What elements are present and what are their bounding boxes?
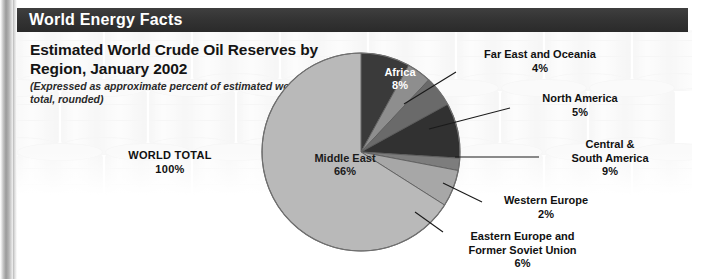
callout-eastern-europe-line1: Eastern Europe and [471, 230, 575, 242]
leader-line-north-america [429, 108, 510, 129]
callout-north-america: North America 5% [500, 92, 660, 119]
callout-western-europe-pct: 2% [476, 208, 616, 222]
leader-line-eastern-europe [415, 212, 443, 232]
callout-central-south-america-line1: Central & [586, 138, 635, 150]
callout-far-east-name: Far East and Oceania [484, 48, 596, 60]
callout-central-south-america-pct: 9% [530, 165, 690, 179]
callout-far-east-pct: 4% [440, 62, 640, 76]
callout-eastern-europe-line2: Former Soviet Union [468, 244, 576, 256]
callout-eastern-europe: Eastern Europe and Former Soviet Union 6… [435, 230, 610, 271]
callout-western-europe: Western Europe 2% [476, 194, 616, 221]
callout-western-europe-name: Western Europe [504, 194, 588, 206]
world-energy-facts-figure: World Energy Facts Estimated World Crude… [0, 0, 715, 279]
callout-far-east-and-oceania: Far East and Oceania 4% [440, 48, 640, 75]
callout-central-south-america-line2: South America [571, 152, 648, 164]
callout-north-america-name: North America [542, 92, 617, 104]
callout-eastern-europe-pct: 6% [435, 257, 610, 271]
callout-north-america-pct: 5% [500, 106, 660, 120]
callout-central-south-america: Central & South America 9% [530, 138, 690, 179]
leader-line-far-east [404, 72, 456, 104]
